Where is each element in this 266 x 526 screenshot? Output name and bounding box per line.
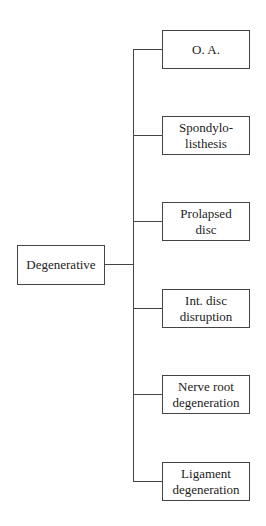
node-ligament-degeneration: Ligament degeneration: [162, 462, 250, 501]
node-label: Nerve root degeneration: [172, 379, 239, 411]
connector-prolapsed-disc: [133, 221, 162, 222]
connector-nerve-root-degeneration: [133, 394, 162, 395]
connector-ligament-degeneration: [133, 481, 162, 482]
node-label: O. A.: [192, 42, 220, 58]
node-int-disc-disruption: Int. disc disruption: [162, 289, 250, 328]
trunk-line: [133, 49, 134, 482]
connector-oa: [133, 49, 162, 50]
node-label: Int. disc disruption: [180, 293, 233, 325]
node-spondylolisthesis: Spondylo- listhesis: [162, 116, 250, 155]
node-label: Spondylo- listhesis: [179, 120, 233, 152]
root-label: Degenerative: [26, 257, 95, 273]
node-prolapsed-disc: Prolapsed disc: [162, 202, 250, 241]
node-nerve-root-degeneration: Nerve root degeneration: [162, 375, 250, 414]
connector-spondylolisthesis: [133, 135, 162, 136]
root-node-degenerative: Degenerative: [17, 245, 105, 285]
connector-int-disc-disruption: [133, 308, 162, 309]
node-oa: O. A.: [162, 30, 250, 69]
node-label: Ligament degeneration: [172, 466, 239, 498]
root-connector: [105, 264, 133, 265]
node-label: Prolapsed disc: [180, 206, 231, 238]
